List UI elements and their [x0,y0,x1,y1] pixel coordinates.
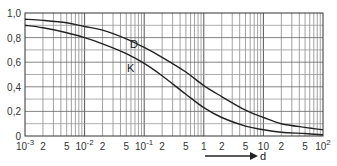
svg-text:0,8: 0,8 [7,33,21,44]
x-axis-ticks: 10-32510-22510-1251251025102 [16,138,331,152]
svg-text:10-1: 10-1 [135,138,154,152]
svg-text:2: 2 [40,141,46,152]
svg-text:5: 5 [302,141,308,152]
curve-d-label: D [130,38,138,50]
grid [25,13,323,136]
svg-text:2: 2 [100,141,106,152]
svg-text:10-3: 10-3 [16,138,35,152]
chart: 00,20,40,60,81,0 10-32510-22510-12512510… [0,0,337,166]
svg-text:0,6: 0,6 [7,57,21,68]
svg-text:0,2: 0,2 [7,106,21,117]
svg-text:1,0: 1,0 [7,8,21,19]
svg-text:10-2: 10-2 [75,138,94,152]
svg-text:2: 2 [219,141,225,152]
x-axis-label: d [260,150,266,162]
svg-text:5: 5 [64,141,70,152]
svg-text:102: 102 [315,138,331,152]
svg-text:5: 5 [183,141,189,152]
curve-k-label: K [127,62,135,74]
svg-text:5: 5 [243,141,249,152]
svg-text:1: 1 [201,141,207,152]
curve-k [25,25,323,135]
svg-text:2: 2 [159,141,165,152]
x-axis-arrow [205,152,258,160]
svg-text:0,4: 0,4 [7,82,21,93]
y-axis-ticks: 00,20,40,60,81,0 [7,8,21,142]
svg-text:5: 5 [123,141,129,152]
svg-text:2: 2 [279,141,285,152]
